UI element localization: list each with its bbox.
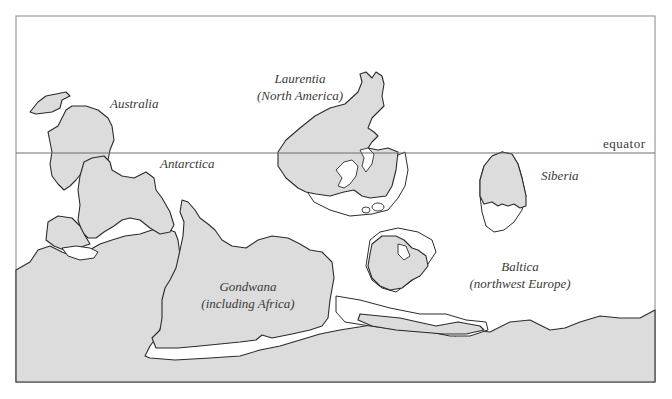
australia-small (30, 92, 70, 114)
laurentia-island-2 (362, 207, 370, 213)
label-baltica-region: (northwest Europe) (460, 275, 580, 292)
label-gondwana-name: Gondwana (183, 278, 313, 295)
laurentia-island-1 (372, 203, 384, 211)
paleogeographic-map (0, 0, 672, 399)
label-siberia: Siberia (541, 167, 579, 184)
label-gondwana: Gondwana (including Africa) (183, 278, 313, 312)
label-baltica: Baltica (northwest Europe) (460, 258, 580, 292)
label-laurentia: Laurentia (North America) (240, 70, 360, 104)
gondwana-africa (152, 200, 334, 348)
label-baltica-name: Baltica (460, 258, 580, 275)
label-laurentia-region: (North America) (240, 87, 360, 104)
label-laurentia-name: Laurentia (240, 70, 360, 87)
label-antarctica: Antarctica (160, 155, 214, 172)
equator-label: equator (603, 136, 645, 152)
label-gondwana-region: (including Africa) (183, 295, 313, 312)
siberia (480, 152, 526, 208)
label-australia: Australia (110, 95, 158, 112)
